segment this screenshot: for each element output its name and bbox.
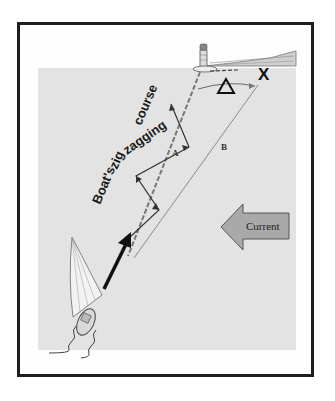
line-b-label: B (221, 142, 227, 152)
shoreline (205, 51, 296, 66)
current-label: Current (246, 220, 280, 232)
destination-label: X (258, 65, 270, 84)
navigation-diagram: X A B Boat's zig zagging course Current (0, 0, 335, 401)
lighthouse-icon (193, 44, 238, 72)
line-a-label: A (172, 148, 179, 158)
